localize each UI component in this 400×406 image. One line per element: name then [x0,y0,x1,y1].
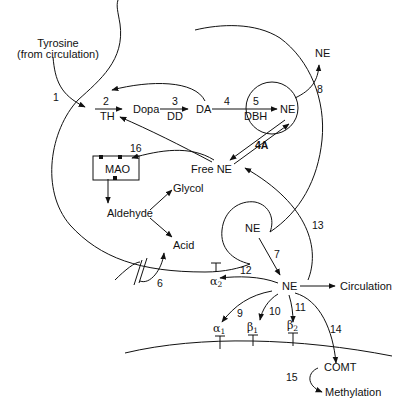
step-6: 6 [157,278,163,289]
ne-released-label: NE [315,48,330,59]
circulation-label: Circulation [340,281,392,292]
step-7: 7 [274,249,280,260]
step-14: 14 [330,324,342,335]
step-5: 5 [253,96,259,107]
step-15: 15 [286,372,298,383]
step-9: 9 [237,308,243,319]
beta1-sub: 1 [253,326,258,335]
step-3: 3 [172,96,178,107]
step-4: 4 [224,96,230,107]
step-2: 2 [103,96,109,107]
enzyme-dbh: DBH [244,111,267,122]
glycol-label: Glycol [173,183,204,194]
alpha2-sub: 2 [217,280,222,289]
ne-pathway-diagram: Tyrosine (from circulation) 1 2 TH Dopa … [0,0,400,406]
dopa-label: Dopa [133,104,159,115]
receptor-beta2: β2 [287,320,298,333]
acid-label: Acid [173,240,194,251]
diagram-lines [0,0,400,406]
nerve-terminal-membrane [52,24,323,272]
step-4a: 4A [255,140,268,151]
tyrosine-label: Tyrosine (from circulation) [17,38,99,60]
step-13: 13 [312,220,324,231]
postsynaptic-membrane [125,341,392,356]
ne-vesicle-label: NE [280,104,295,115]
beta2-sub: 2 [293,324,298,333]
free-ne-label: Free NE [191,164,232,175]
da-label: DA [196,104,211,115]
step-11: 11 [295,302,306,313]
step-16: 16 [130,143,142,154]
receptor-beta1: β1 [247,322,258,335]
step-8: 8 [317,84,323,95]
enzyme-dd: DD [167,111,183,122]
step-1: 1 [53,92,59,103]
ne-cleft-label: NE [282,281,297,292]
comt-label: COMT [324,362,356,373]
axon-outline [117,0,120,24]
receptor-alpha1: α1 [213,323,225,336]
enzyme-th: TH [100,111,115,122]
aldehyde-label: Aldehyde [107,208,153,219]
methylation-label: Methylation [325,387,381,398]
step-12: 12 [240,265,252,276]
ne-recycle-label: NE [245,223,260,234]
mao-label: MAO [105,164,130,175]
alpha1-sub: 1 [220,327,225,336]
step-10: 10 [269,306,281,317]
tyrosine-source-text: (from circulation) [17,49,99,60]
receptor-alpha2: α2 [210,276,222,289]
